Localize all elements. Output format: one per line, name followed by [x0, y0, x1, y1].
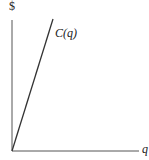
x-axis-label: q — [142, 143, 148, 155]
cost-function-chart — [0, 0, 149, 160]
cost-line — [12, 19, 53, 151]
y-axis-label: $ — [9, 0, 15, 12]
curve-label: C(q) — [55, 27, 77, 39]
